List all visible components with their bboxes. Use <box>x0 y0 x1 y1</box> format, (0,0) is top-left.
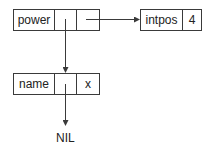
nil-label: NIL <box>56 131 75 145</box>
pointer-arrows <box>0 0 211 148</box>
